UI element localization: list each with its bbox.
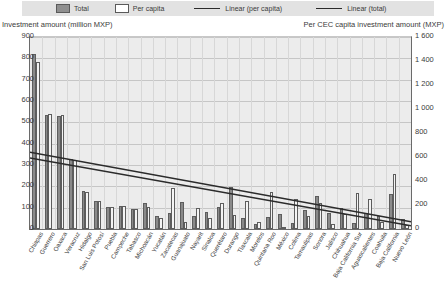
line-marker-icon	[316, 8, 342, 9]
y-tick-label-right: 400	[415, 176, 445, 184]
trendline	[30, 158, 411, 226]
legend-label-total: Total	[74, 5, 89, 12]
plot-area	[29, 36, 412, 230]
chart-legend: Total Per capita Linear (per capita) Lin…	[22, 1, 434, 16]
legend-label-linear-total: Linear (total)	[347, 5, 386, 12]
legend-item-per-capita: Per capita	[115, 4, 165, 13]
left-axis-title: Investment amount (million MXP)	[2, 20, 112, 29]
y-tick-label-right: 0	[415, 224, 445, 232]
trendline	[30, 152, 411, 222]
y-tick-label-right: 1 000	[415, 104, 445, 112]
legend-label-linear-per-capita: Linear (per capita)	[225, 5, 282, 12]
x-axis-labels: ChiapasGuerreroOaxacaVeracruzHidalgoSan …	[29, 231, 412, 292]
legend-item-linear-per-capita: Linear (per capita)	[194, 5, 282, 12]
right-axis-title: Per CEC capita investment amount (MXP)	[304, 20, 444, 29]
y-tick-label-right: 1 200	[415, 80, 445, 88]
legend-item-total: Total	[56, 4, 89, 13]
y-tick-label-right: 200	[415, 200, 445, 208]
y-tick-label-right: 600	[415, 152, 445, 160]
trendlines-layer	[30, 37, 411, 229]
y-tick-label-right: 800	[415, 128, 445, 136]
legend-item-linear-total: Linear (total)	[316, 5, 386, 12]
legend-label-per-capita: Per capita	[133, 5, 165, 12]
hollow-square-icon	[115, 4, 129, 13]
y-tick-label-right: 1 600	[415, 32, 445, 40]
filled-square-icon	[56, 4, 70, 13]
y-tick-label-right: 1 400	[415, 56, 445, 64]
line-marker-icon	[194, 8, 220, 9]
